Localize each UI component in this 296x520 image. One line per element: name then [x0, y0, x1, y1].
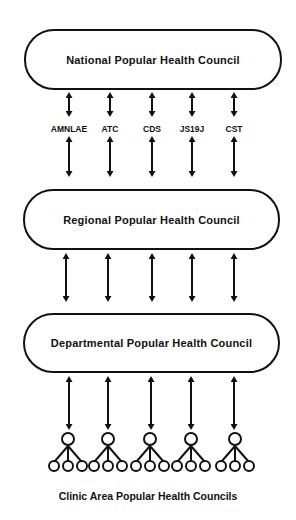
arrow-orgs-to-regional	[69, 139, 234, 174]
clinic-tree-icon	[131, 433, 169, 471]
clinic-caption: Clinic Area Popular Health Councils	[0, 490, 296, 502]
clinic-tree-icon	[49, 433, 87, 471]
clinic-tree-icon	[172, 433, 210, 471]
arrow-regional-to-departmental	[66, 256, 234, 299]
clinic-tree-icon	[216, 433, 254, 471]
clinic-tree-icon	[89, 433, 127, 471]
connector-layer	[0, 0, 296, 520]
clinic-icons	[49, 433, 254, 471]
arrow-national-to-orgs	[69, 95, 234, 114]
arrow-departmental-to-clinics	[69, 379, 234, 427]
